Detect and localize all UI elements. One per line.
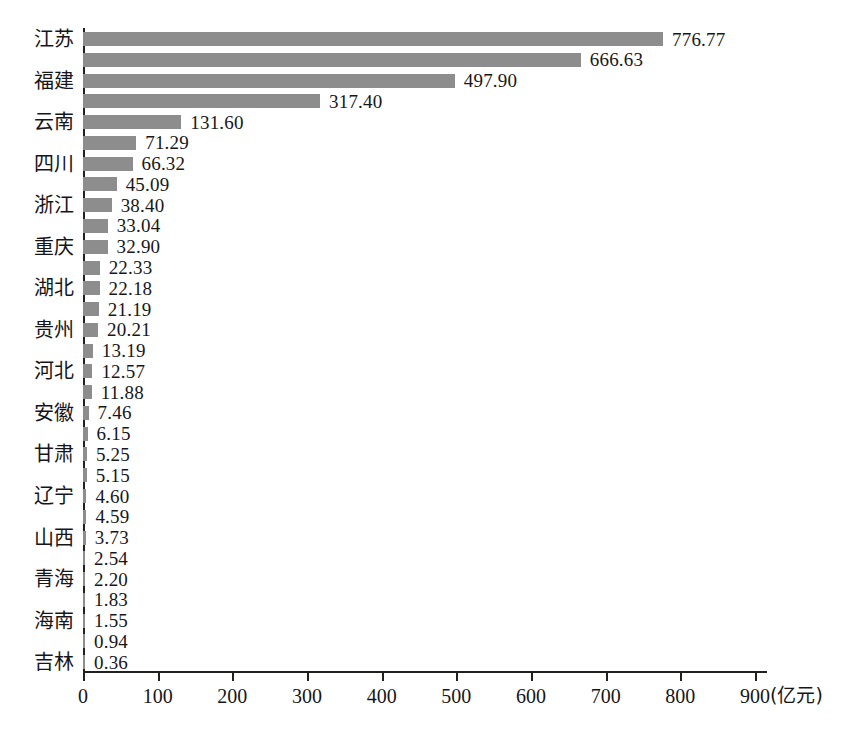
bar-row: 776.77: [83, 28, 765, 51]
bar-value-label: 0.36: [94, 653, 128, 672]
bar: [83, 634, 85, 648]
bar: [83, 323, 98, 337]
bar-row: 22.18: [83, 277, 765, 300]
bar-row: 71.29: [83, 132, 765, 155]
bar-value-label: 1.55: [94, 611, 128, 630]
bar: [83, 74, 455, 88]
bar-value-label: 11.88: [101, 383, 144, 402]
x-tick-label-600: 600: [516, 686, 546, 706]
bar-row: 2.20: [83, 568, 765, 591]
bar: [83, 655, 85, 669]
bar: [83, 364, 92, 378]
bar: [83, 344, 93, 358]
bar-value-label: 66.32: [142, 154, 186, 173]
bar-value-label: 5.25: [96, 445, 130, 464]
bar-row: 0.94: [83, 630, 765, 653]
x-tick-mark-300: [307, 673, 309, 681]
bar: [83, 53, 581, 67]
bar-value-label: 3.73: [95, 528, 129, 547]
bar-row: 38.40: [83, 194, 765, 217]
bar-value-label: 2.20: [94, 570, 128, 589]
x-tick-mark-0: [83, 673, 85, 681]
category-label-湖北: 湖北: [8, 278, 74, 298]
bar-value-label: 497.90: [464, 71, 517, 90]
bar-value-label: 666.63: [590, 50, 643, 69]
bar-row: 22.33: [83, 257, 765, 280]
bar: [83, 177, 117, 191]
bar: [83, 240, 108, 254]
bar-value-label: 22.18: [109, 279, 153, 298]
category-label-福建: 福建: [8, 71, 74, 91]
bar: [83, 614, 85, 628]
x-tick-label-200: 200: [217, 686, 247, 706]
bar: [83, 198, 112, 212]
x-tick-label-300: 300: [292, 686, 322, 706]
bar-row: 20.21: [83, 319, 765, 342]
bar-row: 5.15: [83, 464, 765, 487]
category-label-重庆: 重庆: [8, 237, 74, 257]
x-tick-mark-600: [531, 673, 533, 681]
x-tick-mark-700: [606, 673, 608, 681]
x-tick-mark-200: [232, 673, 234, 681]
bar-row: 497.90: [83, 70, 765, 93]
bar-value-label: 20.21: [107, 320, 151, 339]
category-label-海南: 海南: [8, 611, 74, 631]
category-label-辽宁: 辽宁: [8, 486, 74, 506]
bar: [83, 468, 87, 482]
x-tick-label-400: 400: [367, 686, 397, 706]
x-tick-mark-400: [382, 673, 384, 681]
bar-row: 13.19: [83, 340, 765, 363]
bar: [83, 115, 181, 129]
bar: [83, 136, 136, 150]
bar-value-label: 7.46: [98, 404, 132, 423]
bar-row: 32.90: [83, 236, 765, 259]
category-label-吉林: 吉林: [8, 652, 74, 672]
x-tick-label-100: 100: [143, 686, 173, 706]
bar-value-label: 4.60: [95, 487, 129, 506]
bar-row: 4.60: [83, 485, 765, 508]
x-tick-label-500: 500: [441, 686, 471, 706]
bar-row: 33.04: [83, 215, 765, 238]
bar: [83, 32, 663, 46]
bar-row: 66.32: [83, 153, 765, 176]
bar-row: 5.25: [83, 443, 765, 466]
bar: [83, 406, 89, 420]
x-tick-mark-100: [158, 673, 160, 681]
bar: [83, 302, 99, 316]
bar-value-label: 6.15: [97, 424, 131, 443]
x-tick-label-800: 800: [665, 686, 695, 706]
bar-value-label: 13.19: [102, 341, 146, 360]
bar-row: 4.59: [83, 506, 765, 529]
bar-row: 2.54: [83, 547, 765, 570]
bar-value-label: 12.57: [101, 362, 145, 381]
bar-row: 45.09: [83, 173, 765, 196]
bar: [83, 94, 320, 108]
bar-value-label: 776.77: [672, 30, 725, 49]
category-label-浙江: 浙江: [8, 195, 74, 215]
x-tick-label-900: 900: [740, 686, 770, 706]
category-label-河北: 河北: [8, 361, 74, 381]
bar: [83, 510, 86, 524]
bar: [83, 385, 92, 399]
bar: [83, 427, 88, 441]
x-tick-mark-500: [456, 673, 458, 681]
bar: [83, 261, 100, 275]
bar-row: 1.55: [83, 610, 765, 633]
bar-value-label: 5.15: [96, 466, 130, 485]
bar: [83, 281, 100, 295]
bar: [83, 572, 85, 586]
category-label-山西: 山西: [8, 528, 74, 548]
bar-row: 12.57: [83, 360, 765, 383]
bar-row: 0.36: [83, 651, 765, 674]
bar-row: 21.19: [83, 298, 765, 321]
bar-row: 131.60: [83, 111, 765, 134]
category-label-甘肃: 甘肃: [8, 444, 74, 464]
bar-value-label: 45.09: [126, 175, 170, 194]
bar: [83, 551, 85, 565]
bar-value-label: 0.94: [94, 632, 128, 651]
category-label-云南: 云南: [8, 112, 74, 132]
x-axis-unit-label: (亿元): [770, 686, 823, 705]
category-label-青海: 青海: [8, 569, 74, 589]
bar-row: 666.63: [83, 49, 765, 72]
bar-value-label: 22.33: [109, 258, 153, 277]
